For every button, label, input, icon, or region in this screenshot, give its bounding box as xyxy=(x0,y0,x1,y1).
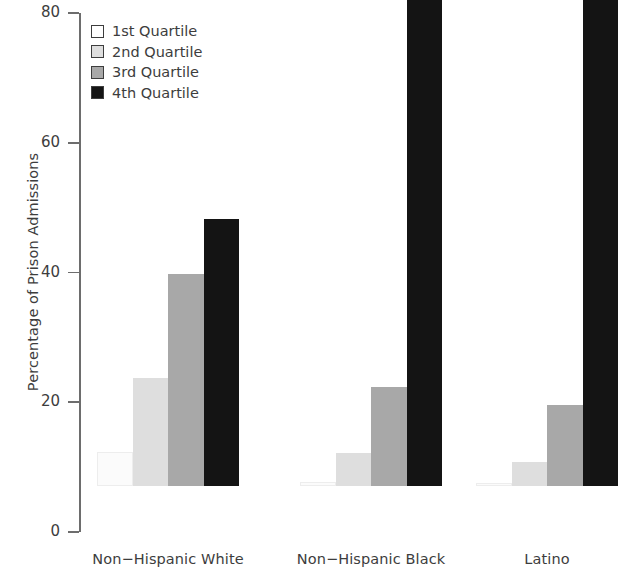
bar xyxy=(97,452,133,486)
bar xyxy=(204,219,240,486)
legend-item: 2nd Quartile xyxy=(91,42,202,63)
x-axis-group-label: Non−Hispanic White xyxy=(58,551,278,567)
bar xyxy=(407,0,443,486)
bar xyxy=(476,483,512,486)
bar xyxy=(300,482,336,486)
bar xyxy=(168,274,204,486)
bar xyxy=(371,387,407,486)
legend-item-label: 4th Quartile xyxy=(112,86,199,101)
legend-swatch-icon xyxy=(91,25,104,38)
legend-item: 1st Quartile xyxy=(91,21,202,42)
legend-item-label: 3rd Quartile xyxy=(112,65,199,80)
bar xyxy=(133,378,169,486)
legend-swatch-icon xyxy=(91,66,104,79)
bar xyxy=(512,462,548,486)
legend-item-label: 2nd Quartile xyxy=(112,45,202,60)
legend-item: 3rd Quartile xyxy=(91,62,202,83)
x-axis-group-label: Latino xyxy=(437,551,622,567)
legend-swatch-icon xyxy=(91,45,104,58)
legend-item-label: 1st Quartile xyxy=(112,24,197,39)
legend-swatch-icon xyxy=(91,86,104,99)
bar xyxy=(547,405,583,486)
bar xyxy=(336,453,372,486)
legend-item: 4th Quartile xyxy=(91,83,202,104)
chart-legend: 1st Quartile2nd Quartile3rd Quartile4th … xyxy=(91,21,202,103)
bar xyxy=(583,0,619,486)
